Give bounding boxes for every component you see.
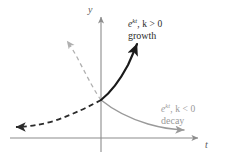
growth-word: growth (128, 30, 162, 42)
growth-curve-dashed (16, 100, 101, 127)
decay-formula-condition: , k < 0 (170, 104, 195, 114)
growth-curve-solid (101, 44, 137, 100)
plot-canvas (0, 0, 229, 164)
growth-annotation: ekt, k > 0 growth (128, 17, 162, 42)
decay-curve-dashed (67, 41, 101, 100)
y-axis-label: y (88, 5, 92, 15)
growth-formula-condition: , k > 0 (137, 19, 162, 29)
t-axis-label: t (205, 140, 208, 150)
decay-word: decay (161, 115, 195, 127)
decay-formula: ekt, k < 0 (161, 102, 195, 115)
exponential-growth-decay-figure: y t ekt, k > 0 growth ekt, k < 0 decay (0, 0, 229, 164)
growth-formula: ekt, k > 0 (128, 17, 162, 30)
decay-annotation: ekt, k < 0 decay (161, 102, 195, 127)
